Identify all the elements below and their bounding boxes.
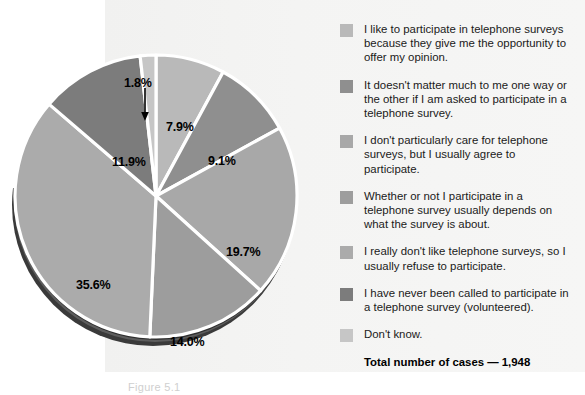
pie-chart: 7.9%9.1%19.7%14.0%35.6%11.9%1.8% — [8, 38, 308, 356]
legend-item: I really don't like telephone surveys, s… — [340, 244, 576, 272]
pie-slice-value-label: 14.0% — [170, 335, 204, 349]
legend-swatch-icon — [340, 288, 353, 301]
legend-item: I have never been called to participate … — [340, 286, 576, 314]
legend-item: Whether or not I participate in a teleph… — [340, 189, 576, 232]
legend-item: I like to participate in telephone surve… — [340, 22, 576, 65]
legend-item-label: It doesn't matter much to me one way or … — [364, 78, 569, 121]
legend-item-label: Don't know. — [364, 327, 423, 341]
legend-swatch-icon — [340, 135, 353, 148]
legend-item-label: Whether or not I participate in a teleph… — [364, 189, 569, 232]
legend-swatch-icon — [340, 80, 353, 93]
pie-slice-value-label: 11.9% — [112, 155, 146, 169]
pie-slice-value-label: 9.1% — [208, 154, 236, 168]
legend-swatch-icon — [340, 329, 353, 342]
legend-item-label: I have never been called to participate … — [364, 286, 569, 314]
callout-smallest-slice — [110, 68, 180, 128]
legend-item-label: I like to participate in telephone surve… — [364, 22, 569, 65]
legend-item: Don't know. — [340, 327, 576, 342]
figure-caption: Figure 5.1 — [128, 381, 181, 393]
legend-item-label: I don't particularly care for telephone … — [364, 133, 569, 176]
legend-total-cases: Total number of cases — 1,948 — [364, 355, 576, 369]
pie-slice-value-label: 35.6% — [76, 278, 110, 292]
legend-item: It doesn't matter much to me one way or … — [340, 78, 576, 121]
legend-swatch-icon — [340, 191, 353, 204]
pie-slice-value-label: 19.7% — [226, 245, 260, 259]
legend-item-label: I really don't like telephone surveys, s… — [364, 244, 569, 272]
legend-rows: I like to participate in telephone surve… — [340, 22, 576, 342]
figure-root: 7.9%9.1%19.7%14.0%35.6%11.9%1.8% I like … — [0, 0, 585, 395]
legend: I like to participate in telephone surve… — [340, 22, 576, 369]
callout-arrow-icon — [110, 68, 180, 128]
legend-swatch-icon — [340, 246, 353, 259]
legend-item: I don't particularly care for telephone … — [340, 133, 576, 176]
legend-swatch-icon — [340, 24, 353, 37]
